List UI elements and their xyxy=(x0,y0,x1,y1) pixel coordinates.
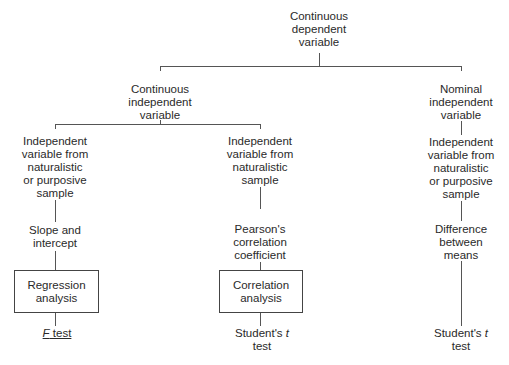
analysis-line: analysis xyxy=(233,292,289,305)
test-rest: test xyxy=(50,327,72,339)
col1-statistic-node: Slope and intercept xyxy=(29,224,81,250)
root-label-line: dependent xyxy=(290,23,348,36)
sample-line: or purposive xyxy=(428,175,494,188)
analysis-line: Regression xyxy=(27,279,85,292)
sample-line: variable from xyxy=(428,149,494,162)
sample-line: naturalistic xyxy=(22,161,88,174)
col1-connector-1 xyxy=(55,200,56,222)
col2-connector-3 xyxy=(260,313,261,326)
connector-continuous-iv-horizontal xyxy=(55,124,261,125)
test-line2: test xyxy=(434,340,488,353)
statistic-line: correlation xyxy=(233,236,287,249)
test-line2: test xyxy=(235,340,289,353)
analysis-line: Correlation xyxy=(233,279,289,292)
col2-statistic-node: Pearson's correlation coefficient xyxy=(233,223,287,262)
statistic-line: Slope and xyxy=(29,224,81,237)
statistic-line: intercept xyxy=(29,237,81,250)
statistic-line: between xyxy=(435,236,487,249)
test-italic: t xyxy=(485,327,488,339)
sample-line: Independent xyxy=(227,135,293,148)
connector-to-continuous-iv xyxy=(160,66,161,71)
statistic-line: Pearson's xyxy=(233,223,287,236)
col2-connector-1 xyxy=(260,187,261,209)
col1-connector-3 xyxy=(55,313,56,326)
connector-to-col2 xyxy=(260,124,261,129)
node-continuous-independent-variable: Continuous independent variable xyxy=(128,83,191,122)
statistic-line: Difference xyxy=(435,223,487,236)
correlation-analysis-box: Correlation analysis xyxy=(219,270,303,313)
connector-to-nominal-iv xyxy=(461,66,462,71)
node-label-line: Nominal xyxy=(429,83,492,96)
col3-statistic-node: Difference between means xyxy=(435,223,487,262)
root-label-line: Continuous xyxy=(290,10,348,23)
test-plain: Student's xyxy=(235,327,286,339)
test-italic: t xyxy=(286,327,289,339)
connector-to-col1 xyxy=(55,124,56,129)
analysis-line: analysis xyxy=(27,292,85,305)
node-label-line: Continuous xyxy=(128,83,191,96)
connector-nominal-iv-down xyxy=(461,121,462,135)
sample-line: sample xyxy=(227,174,293,187)
test-plain: Student's xyxy=(434,327,485,339)
f-test-label: F test xyxy=(43,327,72,340)
sample-line: naturalistic xyxy=(428,162,494,175)
sample-line: Independent xyxy=(22,135,88,148)
root-label-line: variable xyxy=(290,36,348,49)
col1-sample-node: Independent variable from naturalistic o… xyxy=(22,135,88,200)
students-t-test-label-col2: Student's t test xyxy=(235,327,289,353)
sample-line: variable from xyxy=(227,148,293,161)
students-t-test-label-col3: Student's t test xyxy=(434,327,488,353)
sample-line: Independent xyxy=(428,136,494,149)
sample-line: sample xyxy=(22,187,88,200)
statistic-line: coefficient xyxy=(233,249,287,262)
col3-sample-node: Independent variable from naturalistic o… xyxy=(428,136,494,201)
col3-connector-1 xyxy=(461,201,462,221)
test-italic: F xyxy=(43,327,50,339)
node-nominal-independent-variable: Nominal independent variable xyxy=(429,83,492,122)
connector-root-horizontal xyxy=(160,66,462,67)
sample-line: variable from xyxy=(22,148,88,161)
col2-sample-node: Independent variable from naturalistic s… xyxy=(227,135,293,187)
col3-connector-2 xyxy=(461,261,462,326)
sample-line: naturalistic xyxy=(227,161,293,174)
col1-connector-2 xyxy=(55,251,56,271)
root-node-continuous-dependent-variable: Continuous dependent variable xyxy=(290,10,348,49)
connector-root-down xyxy=(319,53,320,66)
node-label-line: independent xyxy=(429,96,492,109)
sample-line: sample xyxy=(428,188,494,201)
node-label-line: independent xyxy=(128,96,191,109)
regression-analysis-box: Regression analysis xyxy=(14,270,99,313)
sample-line: or purposive xyxy=(22,174,88,187)
